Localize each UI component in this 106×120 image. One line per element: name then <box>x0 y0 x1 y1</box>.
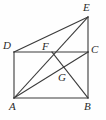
segment-AC <box>14 52 88 98</box>
segment-layer <box>14 17 88 98</box>
vertex-label-F: F <box>42 41 49 52</box>
vertex-label-D: D <box>3 40 11 51</box>
segment-AE <box>14 17 88 98</box>
vertex-label-B: B <box>84 101 91 112</box>
vertex-label-A: A <box>9 101 16 112</box>
vertex-label-E: E <box>83 2 90 13</box>
geometry-figure: A B C D E F G <box>0 0 106 120</box>
segment-DE <box>14 17 88 52</box>
vertex-label-G: G <box>58 72 66 83</box>
vertex-label-C: C <box>91 44 98 55</box>
